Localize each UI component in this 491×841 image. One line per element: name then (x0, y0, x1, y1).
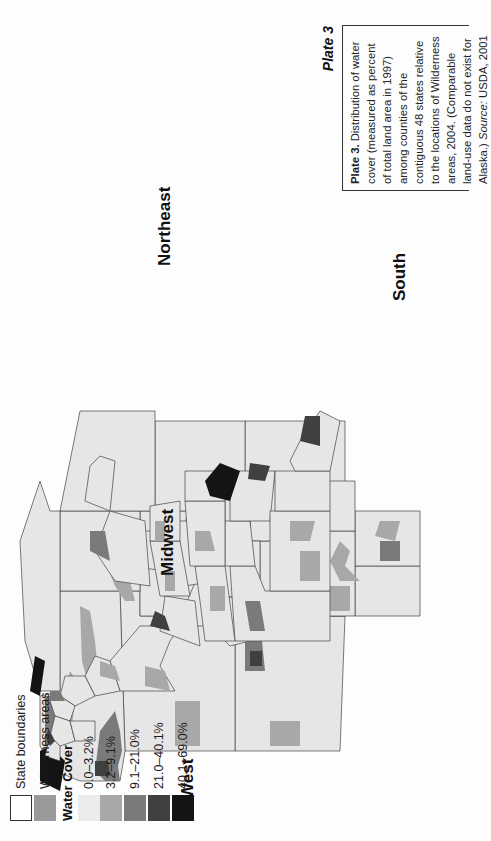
legend-wilderness-areas: Wilderness areas (34, 692, 56, 821)
water-class-swatch (78, 795, 100, 821)
caption-body: Distribution of water cover (measured as… (349, 36, 489, 184)
caption-lead: Plate 3. (349, 144, 361, 184)
source-value: USDA, 2001 (477, 35, 489, 101)
legend-class-4: 40.1–69.0% (172, 722, 194, 821)
legend-class-2: 9.1–21.0% (124, 729, 146, 821)
plate-caption: Plate 3 Plate 3. Distribution of water c… (320, 26, 465, 191)
legend-class-3: 21.0–40.1% (148, 722, 170, 821)
water-class-swatch (148, 795, 170, 821)
state-boundary-swatch (10, 795, 32, 821)
region-label-south: South (390, 253, 410, 301)
region-label-northeast: Northeast (155, 187, 175, 266)
water-class-swatch (100, 795, 122, 821)
source-label: Source: (477, 101, 489, 140)
legend-class-1: 3.2–9.1% (100, 736, 122, 821)
wilderness-swatch (34, 795, 56, 821)
water-class-swatch (172, 795, 194, 821)
region-label-midwest: Midwest (158, 509, 178, 576)
legend-state-boundaries: State boundaries (10, 694, 32, 821)
legend-water-cover-title: Water Cover (60, 745, 75, 821)
legend-class-0: 0.0–3.2% (78, 736, 100, 821)
caption-text: Plate 3. Distribution of water cover (me… (342, 25, 469, 191)
plate-title: Plate 3 (320, 26, 336, 191)
water-class-swatch (124, 795, 146, 821)
